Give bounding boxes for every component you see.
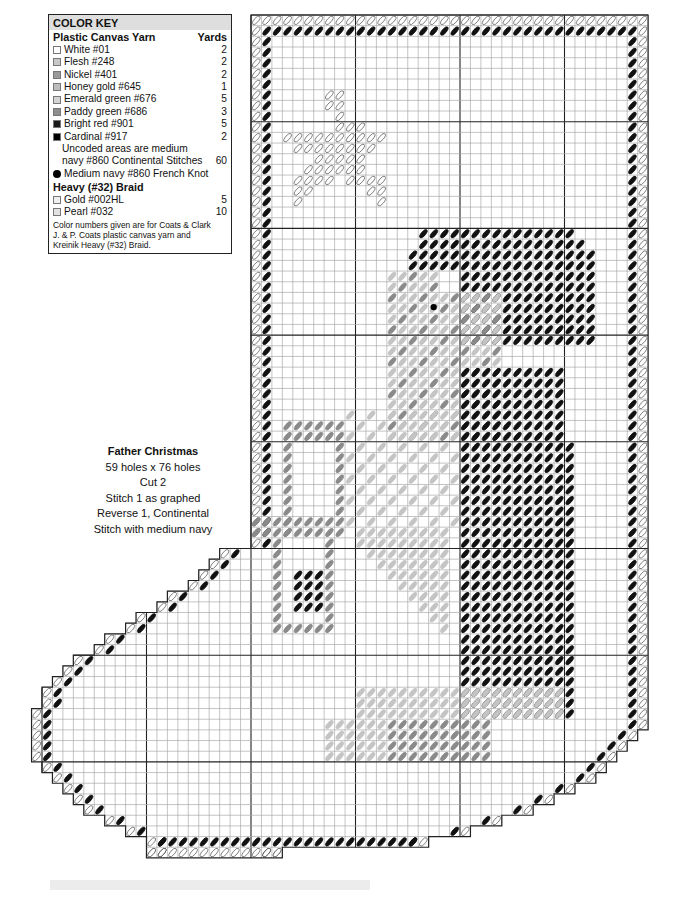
stocking-stitch-chart — [0, 0, 680, 898]
footer-bar — [50, 880, 370, 890]
